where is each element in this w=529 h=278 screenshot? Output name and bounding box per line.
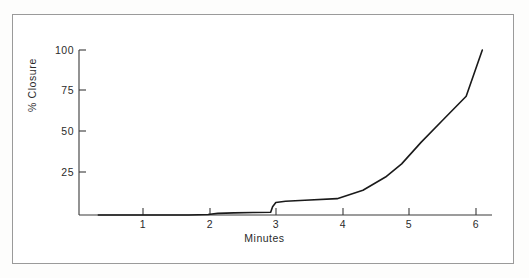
figure-root: 100 75 50 25 1 2 3 4 5 6 % Closure Minut…	[0, 0, 529, 278]
x-tick-label-2: 2	[200, 218, 220, 230]
y-tick-label-25: 25	[42, 166, 74, 178]
x-tick-label-6: 6	[466, 218, 486, 230]
x-tick-marks	[143, 208, 476, 215]
x-tick-label-1: 1	[133, 218, 153, 230]
x-tick-label-4: 4	[333, 218, 353, 230]
y-tick-label-100: 100	[42, 44, 74, 56]
y-axis-title: % Closure	[26, 98, 38, 112]
x-tick-label-5: 5	[399, 218, 419, 230]
x-axis-title: Minutes	[0, 232, 529, 244]
y-tick-label-50: 50	[42, 125, 74, 137]
y-tick-marks	[79, 50, 86, 172]
y-tick-label-75: 75	[42, 84, 74, 96]
data-series-line	[98, 50, 482, 215]
x-tick-label-3: 3	[266, 218, 286, 230]
